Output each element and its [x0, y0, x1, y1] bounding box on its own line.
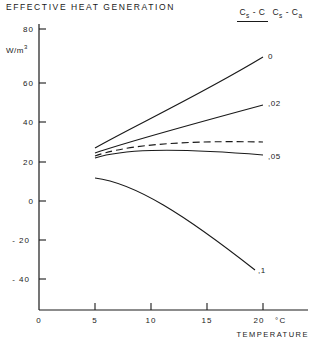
curve-ratio-01	[95, 178, 255, 270]
data-curves	[95, 57, 263, 270]
x-axis-ticks	[95, 303, 263, 310]
chart-figure: EFFECTIVE HEAT GENERATION W/m3 Cs - C Cs…	[0, 0, 313, 346]
plot-area	[0, 0, 313, 346]
curve-ratio-002	[95, 105, 263, 153]
curve-dashed-unlabeled	[95, 142, 263, 156]
curve-ratio-0	[95, 57, 263, 148]
y-axis-ticks	[39, 29, 46, 279]
curve-ratio-005	[95, 150, 263, 158]
